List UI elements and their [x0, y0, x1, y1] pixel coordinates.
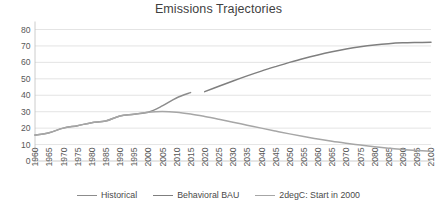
x-axis-tick-label: 2035 [242, 147, 252, 166]
gridlines-group [35, 30, 431, 162]
y-axis-tick-labels: 01020304050607080 [21, 25, 31, 167]
x-axis-tick-label: 1975 [73, 147, 83, 166]
x-axis-tick-label: 1990 [115, 147, 125, 166]
x-axis-tick-label: 2055 [299, 147, 309, 166]
x-axis-tick-label: 2020 [200, 147, 210, 166]
legend-line-swatch [255, 195, 275, 196]
y-axis-tick-label: 40 [21, 90, 31, 100]
x-axis-tick-label: 2005 [158, 147, 168, 166]
legend-item[interactable]: 2degC: Start in 2000 [255, 190, 360, 200]
x-axis-tick-label: 2030 [228, 147, 238, 166]
x-axis-tick-label: 2070 [341, 147, 351, 166]
chart-legend: HistoricalBehavioral BAU2degC: Start in … [0, 190, 437, 200]
x-axis-tick-label: 2045 [271, 147, 281, 166]
x-axis-tick-label: 1970 [59, 147, 69, 166]
x-axis-tick-label: 2010 [172, 147, 182, 166]
y-axis-tick-label: 10 [21, 140, 31, 150]
y-axis-tick-label: 20 [21, 123, 31, 133]
x-axis-tick-label: 2100 [426, 147, 436, 166]
y-axis-tick-label: 30 [21, 107, 31, 117]
y-axis-tick-label: 80 [21, 25, 31, 35]
x-axis-tick-label: 1985 [101, 147, 111, 166]
x-axis-tick-label: 2085 [384, 147, 394, 166]
series-line [35, 93, 191, 135]
axis-lines-group [35, 22, 431, 165]
x-axis-tick-label: 1980 [87, 147, 97, 166]
emissions-trajectories-chart: Emissions Trajectories 01020304050607080… [0, 0, 437, 208]
legend-label: Behavioral BAU [177, 190, 239, 200]
x-axis-tick-label: 2065 [327, 147, 337, 166]
x-axis-tick-label: 1965 [44, 147, 54, 166]
legend-label: 2degC: Start in 2000 [279, 190, 360, 200]
x-axis-tick-label: 2000 [143, 147, 153, 166]
legend-line-swatch [77, 195, 97, 196]
x-axis-tick-label: 2050 [285, 147, 295, 166]
x-axis-tick-label: 2040 [257, 147, 267, 166]
legend-line-swatch [153, 195, 173, 196]
y-axis-tick-label: 70 [21, 41, 31, 51]
legend-label: Historical [101, 190, 137, 200]
series-group [35, 42, 431, 151]
series-line [35, 112, 431, 152]
legend-item[interactable]: Historical [77, 190, 137, 200]
x-axis-tick-label: 2060 [313, 147, 323, 166]
legend-item[interactable]: Behavioral BAU [153, 190, 239, 200]
plot-area: 01020304050607080 1960196519701975198019… [0, 0, 437, 208]
x-axis-tick-label: 2015 [186, 147, 196, 166]
x-axis-tick-label: 2075 [356, 147, 366, 166]
x-axis-tick-label: 1995 [129, 147, 139, 166]
x-axis-tick-label: 2025 [214, 147, 224, 166]
x-axis-tick-label: 1960 [30, 147, 40, 166]
x-axis-tick-label: 2080 [370, 147, 380, 166]
y-axis-tick-label: 50 [21, 74, 31, 84]
series-line [205, 42, 431, 91]
x-axis-tick-labels: 1960196519701975198019851990199520002005… [30, 147, 436, 166]
y-axis-tick-label: 60 [21, 57, 31, 67]
